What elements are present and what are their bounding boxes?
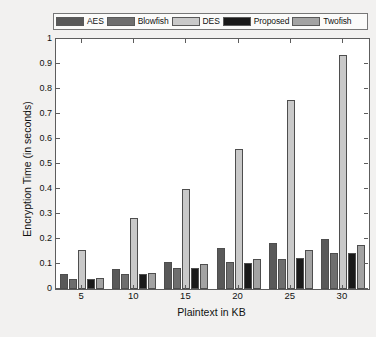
legend-item-proposed[interactable]: Proposed bbox=[223, 14, 290, 29]
bar-group-5kb bbox=[56, 39, 108, 289]
y-tick-label: 0.4 bbox=[30, 184, 52, 193]
x-tick-label: 25 bbox=[284, 291, 295, 301]
x-tick-mark bbox=[133, 285, 134, 289]
legend-item-twofish[interactable]: Twofish bbox=[292, 14, 351, 29]
y-tick-mark bbox=[364, 213, 368, 214]
legend-item-aes[interactable]: AES bbox=[56, 14, 104, 29]
x-tick-mark bbox=[342, 39, 343, 43]
y-tick-label: 0.9 bbox=[30, 59, 52, 68]
y-tick-mark bbox=[56, 238, 60, 239]
y-tick-mark bbox=[364, 113, 368, 114]
y-tick-label: 0.3 bbox=[30, 209, 52, 218]
x-tick-mark bbox=[290, 285, 291, 289]
legend-item-blowfish[interactable]: Blowfish bbox=[107, 14, 169, 29]
bar-des-20kb bbox=[235, 149, 243, 289]
x-tick-label: 30 bbox=[337, 291, 348, 301]
y-tick-mark bbox=[56, 163, 60, 164]
y-tick-label: 0.2 bbox=[30, 234, 52, 243]
y-tick-label: 0.1 bbox=[30, 259, 52, 268]
x-tick-label: 20 bbox=[232, 291, 243, 301]
y-tick-mark bbox=[364, 138, 368, 139]
legend-label: DES bbox=[203, 17, 220, 26]
x-tick-label: 10 bbox=[128, 291, 139, 301]
y-tick-label: 0.6 bbox=[30, 134, 52, 143]
x-tick-mark bbox=[81, 285, 82, 289]
x-axis-label: Plaintext in KB bbox=[55, 306, 368, 318]
y-tick-mark bbox=[364, 163, 368, 164]
y-tick-mark bbox=[364, 88, 368, 89]
x-tick-label: 15 bbox=[180, 291, 191, 301]
bar-group-20kb bbox=[213, 39, 265, 289]
x-tick-mark bbox=[342, 285, 343, 289]
y-tick-label: 0.8 bbox=[30, 84, 52, 93]
x-tick-label: 5 bbox=[78, 291, 83, 301]
y-tick-mark bbox=[364, 188, 368, 189]
legend-label: Blowfish bbox=[138, 17, 169, 26]
y-tick-mark bbox=[56, 88, 60, 89]
y-tick-mark bbox=[56, 63, 60, 64]
figure-canvas: AESBlowfishDESProposedTwofish Encryption… bbox=[0, 0, 376, 337]
y-axis-tick-marks bbox=[56, 38, 62, 288]
chart-legend: AESBlowfishDESProposedTwofish bbox=[53, 13, 368, 30]
bar-aes-20kb bbox=[217, 248, 225, 289]
bar-aes-25kb bbox=[269, 243, 277, 289]
y-tick-mark bbox=[56, 138, 60, 139]
bar-aes-30kb bbox=[321, 239, 329, 289]
bar-group-15kb bbox=[160, 39, 212, 289]
y-axis-tick-labels: 00.10.20.30.40.50.60.70.80.91 bbox=[24, 38, 52, 288]
y-tick-mark bbox=[364, 263, 368, 264]
x-tick-mark bbox=[238, 285, 239, 289]
y-tick-mark bbox=[56, 213, 60, 214]
x-axis-tick-labels: 51015202530 bbox=[55, 291, 368, 305]
y-axis-tick-marks-right bbox=[362, 38, 368, 288]
x-tick-mark bbox=[185, 285, 186, 289]
x-tick-mark bbox=[290, 39, 291, 43]
x-axis-tick-marks-top bbox=[55, 39, 368, 44]
legend-swatch-icon bbox=[56, 17, 84, 26]
plot-area bbox=[55, 38, 370, 290]
y-tick-label: 0.7 bbox=[30, 109, 52, 118]
x-tick-mark bbox=[185, 39, 186, 43]
y-tick-label: 1 bbox=[30, 34, 52, 43]
legend-label: Proposed bbox=[254, 17, 290, 26]
y-tick-mark bbox=[56, 113, 60, 114]
legend-swatch-icon bbox=[172, 17, 200, 26]
bar-des-30kb bbox=[339, 55, 347, 289]
x-tick-mark bbox=[238, 39, 239, 43]
legend-label: AES bbox=[87, 17, 104, 26]
legend-swatch-icon bbox=[223, 17, 251, 26]
x-tick-mark bbox=[133, 39, 134, 43]
bars-layer bbox=[56, 39, 369, 289]
bar-des-25kb bbox=[287, 100, 295, 289]
bar-group-25kb bbox=[265, 39, 317, 289]
x-tick-mark bbox=[81, 39, 82, 43]
x-axis-tick-marks bbox=[55, 284, 368, 289]
bar-des-10kb bbox=[130, 218, 138, 289]
bar-group-10kb bbox=[108, 39, 160, 289]
y-tick-mark bbox=[364, 63, 368, 64]
y-tick-label: 0 bbox=[30, 284, 52, 293]
y-tick-mark bbox=[56, 263, 60, 264]
legend-label: Twofish bbox=[323, 17, 351, 26]
y-tick-mark bbox=[364, 238, 368, 239]
bar-des-15kb bbox=[182, 189, 190, 289]
y-tick-mark bbox=[56, 188, 60, 189]
y-tick-label: 0.5 bbox=[30, 159, 52, 168]
legend-swatch-icon bbox=[107, 17, 135, 26]
legend-item-des[interactable]: DES bbox=[172, 14, 220, 29]
legend-swatch-icon bbox=[292, 17, 320, 26]
